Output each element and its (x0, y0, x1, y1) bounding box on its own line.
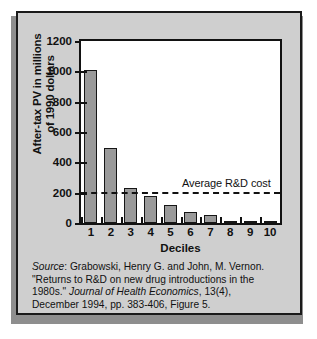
source-journal-name: Journal of Health Economics (69, 286, 199, 297)
source-label: Source (32, 261, 64, 272)
x-tick-2 (121, 217, 123, 223)
y-tick-label-1000: 1000 (46, 65, 72, 77)
y-tick-inner-800 (81, 102, 87, 104)
bar-decile-7 (204, 215, 217, 223)
bars-layer (81, 41, 280, 223)
x-tick-label-3: 3 (128, 226, 134, 238)
source-line-4: December 1994, pp. 383-406, Figure 5. (32, 299, 290, 312)
y-tick-label-0: 0 (66, 217, 72, 229)
bar-chart: After-tax PV in millions of 1990 dollars… (18, 13, 300, 253)
y-tick-label-200: 200 (53, 187, 72, 199)
average-rd-cost-line (81, 192, 280, 194)
x-tick-10 (280, 217, 282, 223)
y-tick-0 (75, 223, 81, 225)
x-tick-label-8: 8 (227, 226, 233, 238)
plot-area: 02004006008001000120012345678910 Average… (79, 39, 282, 225)
x-tick-label-10: 10 (264, 226, 277, 238)
y-tick-inner-600 (81, 132, 87, 134)
x-tick-label-4: 4 (147, 226, 153, 238)
bar-decile-5 (164, 205, 177, 223)
y-tick-1200 (75, 41, 81, 43)
y-tick-label-800: 800 (53, 96, 72, 108)
average-rd-cost-label: Average R&D cost (182, 177, 271, 189)
figure-root: After-tax PV in millions of 1990 dollars… (0, 0, 317, 339)
source-line-3-rest: , 13(4), (199, 286, 231, 297)
x-tick-label-7: 7 (207, 226, 213, 238)
x-tick-label-5: 5 (167, 226, 173, 238)
source-citation: Source: Grabowski, Henry G. and John, M.… (32, 261, 290, 311)
source-line-2: "Returns to R&D on new drug introduction… (32, 274, 290, 287)
y-tick-label-1200: 1200 (46, 35, 72, 47)
y-tick-inner-400 (81, 162, 87, 164)
y-tick-inner-1000 (81, 71, 87, 73)
x-tick-label-1: 1 (88, 226, 94, 238)
bar-decile-6 (184, 212, 197, 223)
source-line-1: Source: Grabowski, Henry G. and John, M.… (32, 261, 290, 274)
x-axis-title: Deciles (79, 242, 282, 254)
x-tick-8 (240, 217, 242, 223)
source-line-1-rest: : Grabowski, Henry G. and John, M. Verno… (64, 261, 264, 272)
source-line-3: 1980s." Journal of Health Economics, 13(… (32, 286, 290, 299)
x-tick-9 (260, 217, 262, 223)
bar-decile-10 (264, 221, 277, 223)
y-tick-label-600: 600 (53, 126, 72, 138)
x-tick-label-2: 2 (108, 226, 114, 238)
y-axis-title-line1: After-tax PV in millions (31, 14, 44, 174)
bar-decile-4 (144, 196, 157, 223)
y-tick-label-400: 400 (53, 156, 72, 168)
x-tick-5 (181, 217, 183, 223)
bar-decile-9 (244, 221, 257, 223)
x-tick-label-6: 6 (187, 226, 193, 238)
x-tick-7 (220, 217, 222, 223)
x-tick-6 (200, 217, 202, 223)
x-tick-label-9: 9 (247, 226, 253, 238)
source-line-3-prefix: 1980s." (32, 286, 69, 297)
x-tick-1 (101, 217, 103, 223)
bar-decile-2 (104, 148, 117, 223)
bar-decile-1 (84, 70, 97, 223)
x-tick-0 (81, 217, 83, 223)
figure-panel: After-tax PV in millions of 1990 dollars… (16, 11, 302, 315)
x-tick-3 (141, 217, 143, 223)
bar-decile-8 (224, 221, 237, 223)
x-tick-4 (161, 217, 163, 223)
